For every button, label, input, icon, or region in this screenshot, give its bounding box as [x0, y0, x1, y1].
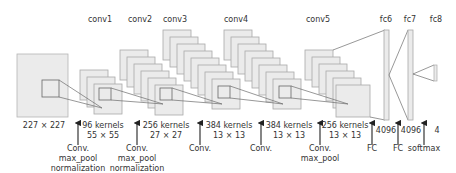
fc8-output	[413, 65, 437, 81]
conv5-stack	[305, 50, 370, 117]
input-image	[17, 54, 68, 117]
conv2-label: conv2	[128, 15, 152, 25]
fc7-label: fc7	[404, 15, 416, 25]
conv5-info-label: 256 kernels 13 × 13	[322, 121, 369, 141]
conv4-info-label: 384 kernels 13 × 13	[266, 121, 313, 141]
conv1-info-label: 96 kernels 55 × 55	[82, 121, 124, 141]
input-size-label: 227 × 227	[23, 121, 65, 131]
conv3-info-label: 384 kernels 13 × 13	[206, 121, 253, 141]
fc8-label: fc8	[430, 15, 442, 25]
op8-label: softmax	[408, 144, 440, 154]
conv5-label: conv5	[306, 15, 330, 25]
op3-label: Conv.	[189, 144, 211, 154]
op4-label: Conv.	[250, 144, 272, 154]
fc6-units-label: 4096	[376, 126, 396, 136]
fc6-bar	[384, 30, 389, 120]
op6-label: FC	[367, 144, 377, 154]
fc7-units-label: 4096	[401, 126, 421, 136]
fc6-label: fc6	[380, 15, 392, 25]
conv3-label: conv3	[163, 15, 187, 25]
op5-label: Conv. max_pool	[301, 144, 340, 164]
conv1-label: conv1	[88, 15, 112, 25]
op2-label: Conv. max_pool normalization	[110, 144, 165, 173]
op7-label: FC	[393, 144, 403, 154]
op1-label: Conv. max_pool normalization	[51, 144, 106, 173]
conv4-label: conv4	[224, 15, 248, 25]
fc7-bar	[408, 30, 413, 120]
fc8-units-label: 4	[434, 126, 439, 136]
conv2-info-label: 256 kernels 27 × 27	[143, 121, 190, 141]
